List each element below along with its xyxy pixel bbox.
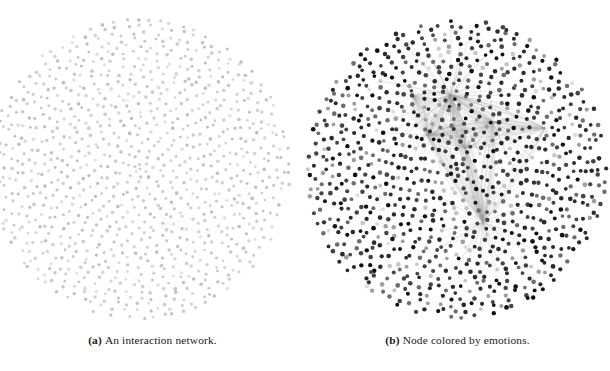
network-node [69,122,73,126]
network-node [67,222,70,225]
network-node [71,202,75,206]
network-node [469,37,473,41]
network-node [32,192,35,195]
network-node [226,287,229,290]
network-node [475,214,479,218]
network-node [542,220,547,225]
network-node [378,215,383,220]
network-node [450,25,454,29]
network-node [471,195,475,199]
network-node [195,94,198,97]
network-node [36,149,40,153]
network-node [184,55,187,58]
network-node [87,271,90,274]
network-node [38,225,42,229]
network-node [40,213,43,216]
network-node [162,287,165,290]
network-node [554,58,558,62]
network-node [508,161,512,165]
network-node [592,132,596,136]
network-node [83,287,87,291]
network-node [523,286,527,290]
network-node [387,100,391,104]
network-node [489,91,493,95]
network-node [474,187,479,192]
network-node [439,302,443,306]
network-node [575,218,579,222]
network-node [195,180,198,183]
network-node [57,178,60,181]
network-node [383,192,387,196]
network-node [153,144,156,147]
network-node [539,79,543,83]
network-node [72,169,75,172]
network-node [185,188,188,191]
network-node [440,228,444,232]
network-node [561,107,565,111]
subfigure-a-label: (a) [88,334,102,346]
network-node [529,105,533,109]
network-node [215,200,218,203]
network-node [147,302,150,305]
network-node [267,159,270,162]
network-node [79,85,82,88]
network-node [457,107,461,111]
network-node [28,74,32,78]
network-node [207,56,210,59]
network-node [398,197,402,201]
network-node [406,122,410,126]
network-node [28,116,31,119]
subfigure-b-caption-text: Node colored by emotions. [403,334,530,346]
network-node [202,212,206,216]
network-node [384,231,388,235]
network-node [564,163,568,167]
network-node [479,80,483,84]
network-node [496,257,500,261]
network-node [508,146,512,150]
network-node [123,308,126,311]
network-node [172,139,175,142]
network-node [505,70,509,74]
network-node [155,180,158,183]
network-node [432,208,436,212]
network-node [91,199,94,202]
network-node [500,101,504,105]
network-node [180,102,183,105]
network-node [348,253,352,257]
network-node [21,171,25,175]
network-node [254,186,258,190]
network-node [75,45,78,48]
network-node [551,245,555,249]
network-node [49,50,53,54]
network-node [52,136,55,139]
network-node [519,181,524,186]
network-node [20,205,23,208]
network-node [153,216,156,219]
network-node [113,132,116,135]
network-node [157,307,160,310]
network-node [122,57,125,60]
network-node [423,83,427,87]
network-node [204,61,207,64]
network-node [46,97,49,100]
network-node [443,209,447,213]
network-node [46,250,49,253]
network-node [96,182,99,185]
network-node [81,240,85,244]
network-node [43,162,46,165]
network-node [475,222,479,226]
network-node [16,159,19,162]
network-node [169,159,172,162]
network-node [102,251,105,254]
network-node [491,185,495,189]
network-node [47,104,50,107]
network-node [485,218,489,222]
network-node [114,276,117,279]
network-node [269,238,272,241]
network-node [218,67,221,70]
network-node [345,189,349,193]
network-node [413,146,417,150]
network-node [44,62,47,65]
network-node [564,187,568,191]
network-node [513,288,517,292]
